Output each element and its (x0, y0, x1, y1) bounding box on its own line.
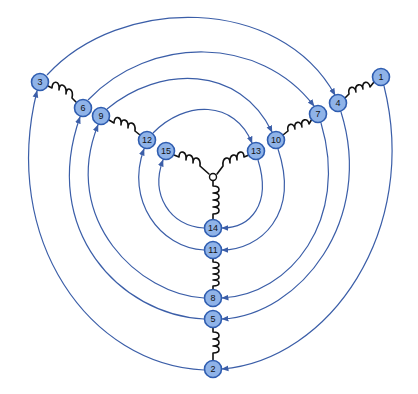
nodes: 1 2 3 4 5 6 7 8 9 10 11 12 13 14 15 (32, 69, 390, 378)
node-14: 14 (205, 220, 222, 237)
center-junction (210, 174, 217, 181)
node-3: 3 (32, 74, 49, 91)
spring-10-7 (283, 119, 312, 135)
node-label: 8 (210, 293, 215, 303)
arc-5-to-6 (69, 117, 204, 319)
spring-9-12 (109, 118, 140, 135)
node-label: 10 (271, 135, 281, 145)
node-8: 8 (205, 290, 222, 307)
node-15: 15 (158, 143, 175, 160)
arc-14-to-15 (159, 160, 204, 228)
node-label: 12 (142, 135, 152, 145)
node-label: 6 (80, 103, 85, 113)
node-1: 1 (373, 69, 390, 86)
ring-inner-arcs (159, 160, 262, 228)
node-label: 7 (315, 109, 320, 119)
ring-2-arcs (69, 52, 349, 319)
spring-4-1 (345, 82, 374, 98)
node-9: 9 (93, 108, 110, 125)
node-7: 7 (310, 106, 327, 123)
arc-2-to-3 (29, 91, 204, 370)
arc-13-to-14 (222, 160, 262, 228)
arc-12-to-13 (153, 109, 252, 143)
node-10: 10 (268, 132, 285, 149)
node-label: 11 (208, 245, 217, 255)
arc-1-to-2 (222, 86, 392, 369)
spring-13-center (217, 152, 249, 174)
spring-center-14 (213, 181, 219, 220)
spring-3-6 (48, 82, 76, 102)
arc-4-to-5 (222, 112, 349, 319)
node-label: 4 (335, 98, 340, 108)
node-label: 9 (98, 111, 103, 121)
node-label: 3 (37, 77, 42, 87)
spring-network-diagram: 1 2 3 4 5 6 7 8 9 10 11 12 13 14 15 (0, 0, 418, 394)
arc-9-to-10 (107, 78, 272, 132)
node-5: 5 (205, 311, 222, 328)
arc-11-to-12 (139, 149, 204, 250)
node-label: 5 (210, 314, 215, 324)
ring-3-arcs (88, 78, 328, 298)
node-6: 6 (75, 100, 92, 117)
node-11: 11 (205, 242, 222, 259)
node-4: 4 (330, 95, 347, 112)
node-label: 2 (210, 364, 215, 374)
node-12: 12 (139, 132, 156, 149)
node-label: 1 (378, 72, 383, 82)
arc-10-to-11 (222, 149, 284, 250)
node-label: 13 (251, 146, 261, 156)
node-2: 2 (205, 361, 222, 378)
node-13: 13 (248, 143, 265, 160)
spring-5-2 (213, 327, 219, 361)
node-label: 14 (208, 223, 218, 233)
spring-15-center (174, 152, 209, 174)
node-label: 15 (161, 146, 171, 156)
spring-11-8 (213, 258, 219, 290)
